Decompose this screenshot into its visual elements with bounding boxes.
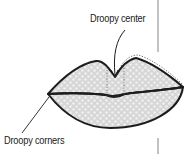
droopy-center-label: Droopy center — [90, 13, 145, 24]
droopy-corners-label: Droopy corners — [4, 135, 64, 146]
corners-leader-line — [22, 97, 49, 133]
